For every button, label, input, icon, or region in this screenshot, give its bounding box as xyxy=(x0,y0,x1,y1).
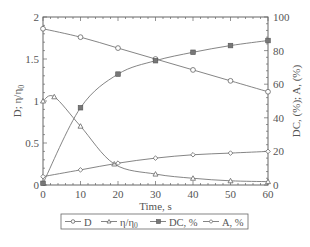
x-tick-label: 10 xyxy=(75,188,87,200)
circle-marker-icon xyxy=(78,35,83,40)
x-tick-label: 20 xyxy=(113,188,125,200)
x-tick-label: 30 xyxy=(150,188,162,200)
y-right-tick-label: 80 xyxy=(273,45,285,57)
y-left-tick-label: 2 xyxy=(34,11,40,23)
y-right-tick-label: 100 xyxy=(273,11,290,23)
series-layer xyxy=(41,26,271,185)
y-right-axis-title: DC, (%); A, (%) xyxy=(290,64,303,137)
circle-open-marker-icon xyxy=(71,220,75,224)
diamond-marker-icon xyxy=(41,174,46,179)
y-right-tick-label: 40 xyxy=(273,112,285,124)
diamond-marker-icon xyxy=(153,156,158,161)
circle-marker-icon xyxy=(228,78,233,83)
y-right-tick-label: 0 xyxy=(273,179,279,191)
circle-marker-icon xyxy=(191,68,196,73)
series-dc xyxy=(41,38,271,185)
x-tick-label: 0 xyxy=(40,188,46,200)
y-left-axis-title-main: D; η/η xyxy=(11,89,23,118)
y-left-tick-label: 1 xyxy=(34,95,40,107)
chart: 0 10 20 30 40 50 60 0 0.5 1 1.5 2 0 20 4… xyxy=(0,0,310,247)
legend: D η/η0 DC, % A, % xyxy=(61,214,248,230)
circle-marker-icon xyxy=(266,89,271,94)
diamond-marker-icon xyxy=(266,149,271,154)
square-marker-icon xyxy=(191,50,196,55)
tick-labels: 0 10 20 30 40 50 60 0 0.5 1 1.5 2 0 20 4… xyxy=(25,11,290,200)
square-marker-icon xyxy=(228,43,233,48)
diamond-marker-icon xyxy=(228,151,233,156)
diamond-marker-icon xyxy=(191,152,196,157)
x-tick-label: 50 xyxy=(225,188,237,200)
square-marker-icon xyxy=(116,72,121,77)
square-marker-icon xyxy=(266,38,271,43)
y-left-tick-label: 0.5 xyxy=(25,137,39,149)
circle-marker-icon xyxy=(116,46,121,51)
square-filled-marker-icon xyxy=(157,220,161,224)
y-left-tick-label: 0 xyxy=(34,179,40,191)
circle-marker-icon xyxy=(41,26,46,31)
y-left-axis-title: D; η/η0 xyxy=(11,85,26,117)
legend-label-dc: DC, % xyxy=(169,217,198,228)
triangle-marker-icon xyxy=(52,94,57,99)
diamond-marker-icon xyxy=(78,168,83,173)
x-axis-title: Time, s xyxy=(139,200,172,212)
x-tick-label: 40 xyxy=(188,188,200,200)
legend-label-d: D xyxy=(84,217,92,228)
square-marker-icon xyxy=(78,105,83,110)
y-right-tick-label: 20 xyxy=(273,145,285,157)
square-marker-icon xyxy=(153,58,158,63)
square-marker-icon xyxy=(41,181,46,186)
series- xyxy=(41,94,271,183)
y-left-tick-label: 1.5 xyxy=(25,53,39,65)
y-left-axis-title-sub: 0 xyxy=(17,85,26,89)
legend-label-a: A, % xyxy=(222,217,244,228)
y-right-tick-label: 60 xyxy=(273,78,285,90)
